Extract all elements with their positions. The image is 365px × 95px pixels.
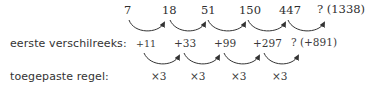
arc-99-297: [224, 53, 259, 64]
arc-297-next: [264, 53, 298, 64]
difference-value: +297: [253, 37, 282, 49]
arc-447-next: [288, 20, 324, 31]
difference-value: +33: [174, 37, 196, 49]
sequence-term: 18: [162, 3, 177, 17]
arc-7-18: [129, 20, 164, 31]
sequence-term: 150: [239, 3, 261, 17]
rule-value: ×3: [231, 70, 246, 82]
difference-value: +99: [214, 37, 236, 49]
rule-value: ×3: [151, 70, 166, 82]
sequence-term: 7: [124, 3, 131, 17]
sequence-term-unknown: ? (1338): [317, 2, 365, 16]
sequence-term: 51: [201, 3, 216, 17]
arc-18-51: [170, 20, 205, 31]
sequence-term: 447: [279, 3, 301, 17]
sequence-arrows: [129, 20, 324, 31]
rule-value: ×3: [190, 70, 205, 82]
arc-33-99: [184, 53, 219, 64]
differences-label: eerste verschilreeks:: [10, 37, 127, 50]
difference-value-unknown: ? (+891): [291, 36, 337, 48]
arc-150-447: [248, 20, 285, 31]
arc-11-33: [144, 53, 179, 64]
difference-value: +11: [136, 38, 156, 49]
rule-value: ×3: [272, 70, 287, 82]
rule-label: toegepaste regel:: [10, 70, 109, 83]
arc-51-150: [208, 20, 245, 31]
difference-arrows: [144, 53, 298, 64]
